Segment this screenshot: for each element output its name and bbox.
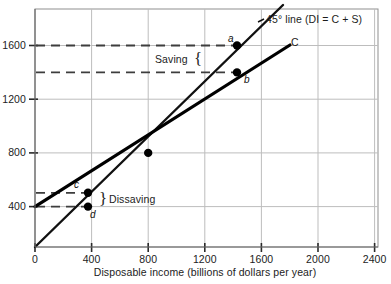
point-marker-c [84,189,92,197]
point-marker-b [233,68,241,76]
y-tick-label-1200: 1200 [0,93,26,105]
x-tick-label-1600: 1600 [241,253,281,265]
x-tick-label-1200: 1200 [185,253,225,265]
dissaving-annotation-label: Dissaving [109,193,155,205]
y-tick-label-800: 800 [0,146,26,158]
point-label-a: a [228,33,234,44]
dissaving-brace: } [99,190,107,207]
point-marker-a [233,41,241,49]
forty-five-line-label: 45° line (DI = C + S) [266,13,362,25]
consumption-line-label: C [291,36,299,48]
y-tick-label-1600: 1600 [0,39,26,51]
x-tick-label-800: 800 [128,253,168,265]
x-tick-label-400: 400 [72,253,112,265]
point-label-b: b [244,74,250,85]
x-tick-label-2400: 2400 [355,253,391,265]
x-axis-title: Disposable income (billions of dollars p… [55,266,355,278]
point-label-d: d [90,209,96,220]
x-tick-label-0: 0 [15,253,55,265]
breakeven-point-marker [144,149,152,157]
point-label-c: c [74,179,79,190]
x-tick-label-2000: 2000 [298,253,338,265]
saving-annotation-label: Saving [155,53,188,65]
consumption-saving-chart: 1600 1200 800 400 0 400 800 1200 1600 20… [0,0,391,284]
saving-brace: { [194,50,202,67]
y-tick-label-400: 400 [0,200,26,212]
chart-canvas [0,0,391,284]
